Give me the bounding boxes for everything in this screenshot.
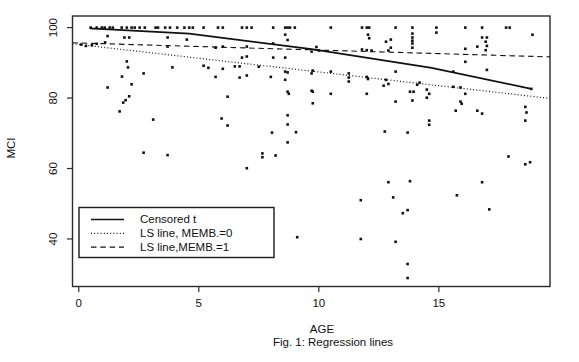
legend-label: Censored t <box>140 213 197 225</box>
scatter-point <box>486 45 489 48</box>
scatter-point <box>246 26 249 29</box>
scatter-point <box>361 26 364 29</box>
scatter-point <box>486 69 489 72</box>
scatter-point <box>411 42 414 45</box>
scatter-point <box>284 56 287 59</box>
scatter-point <box>241 26 244 29</box>
scatter-point <box>387 83 390 86</box>
scatter-point <box>406 263 409 266</box>
scatter-point <box>411 36 414 39</box>
scatter-point <box>310 72 313 75</box>
y-tick-label: 80 <box>47 92 59 105</box>
scatter-point <box>486 36 489 39</box>
scatter-point <box>406 277 409 280</box>
regression-lines <box>73 28 551 98</box>
scatter-point <box>330 70 333 73</box>
scatter-point <box>310 50 313 53</box>
scatter-point <box>348 76 351 79</box>
scatter-point <box>284 26 287 29</box>
scatter-point <box>411 99 414 102</box>
scatter-point <box>508 26 511 29</box>
scatter-point <box>394 70 397 73</box>
scatter-point <box>294 26 297 29</box>
scatter-point <box>186 38 189 41</box>
scatter-point <box>202 26 205 29</box>
scatter-point <box>284 70 287 73</box>
scatter-point <box>361 48 364 51</box>
scatter-point <box>464 93 467 96</box>
y-tick-label: 60 <box>47 162 59 175</box>
scatter-point <box>406 131 409 134</box>
legend-label: LS line,MEMB.=1 <box>140 241 229 253</box>
scatter-point <box>484 49 487 52</box>
line-solid <box>90 28 532 89</box>
scatter-point <box>315 46 318 49</box>
scatter-point <box>112 26 115 29</box>
scatter-point <box>406 209 409 212</box>
scatter-point <box>122 101 125 104</box>
scatter-point <box>274 154 277 157</box>
scatter-point <box>271 131 274 134</box>
scatter-point <box>188 26 191 29</box>
scatter-point <box>392 196 395 199</box>
scatter-point <box>428 124 431 127</box>
scatter-point <box>409 180 412 183</box>
figure-caption: Fig. 1: Regression lines <box>273 336 393 348</box>
scatter-point <box>394 100 397 103</box>
legend-label: LS line, MEMB.=0 <box>140 227 232 239</box>
scatter-point <box>484 40 487 43</box>
scatter-point <box>130 26 133 29</box>
scatter-point <box>524 106 527 109</box>
x-tick-label: 15 <box>432 297 445 309</box>
legend-box: Censored tLS line, MEMB.=0LS line,MEMB.=… <box>79 208 274 258</box>
scatter-point <box>366 26 369 29</box>
scatter-point <box>289 26 292 29</box>
scatter-point <box>220 117 223 120</box>
scatter-point <box>258 65 261 68</box>
scatter-point <box>312 90 315 93</box>
scatter-point <box>166 154 169 157</box>
scatter-point <box>412 90 415 93</box>
scatter-point <box>330 93 333 96</box>
x-tick-label: 0 <box>76 297 82 309</box>
scatter-point <box>428 119 431 122</box>
scatter-point <box>222 26 225 29</box>
scatter-point <box>272 26 275 29</box>
scatter-point <box>409 90 412 93</box>
scatter-point <box>402 212 405 215</box>
scatter-point <box>144 26 147 29</box>
scatter-point <box>360 238 363 241</box>
scatter-point <box>390 38 393 41</box>
scatter-point <box>133 26 136 29</box>
scatter-point <box>360 199 363 202</box>
scatter-point <box>394 241 397 244</box>
scatter-point <box>234 65 237 68</box>
scatter-point <box>123 36 126 39</box>
scatter-point <box>481 112 484 115</box>
scatter-point <box>382 84 385 87</box>
scatter-point <box>238 76 241 79</box>
scatter-point <box>416 83 419 86</box>
scatter-point <box>464 26 467 29</box>
scatter-point <box>126 26 129 29</box>
x-tick-label: 10 <box>312 297 325 309</box>
scatter-point <box>295 131 298 134</box>
scatter-point <box>270 76 273 79</box>
scatter-point <box>127 66 130 69</box>
scatter-point <box>152 118 155 121</box>
scatter-point <box>106 86 109 89</box>
scatter-point <box>464 48 467 51</box>
scatter-point <box>531 33 534 36</box>
x-tick-label: 5 <box>196 297 202 309</box>
y-tick-label: 100 <box>47 18 59 37</box>
scatter-point <box>138 26 141 29</box>
scatter-point <box>250 26 253 29</box>
scatter-point <box>192 26 195 29</box>
scatter-point <box>130 83 133 86</box>
scatter-point <box>367 33 370 36</box>
scatter-point <box>286 114 289 117</box>
scatter-point <box>476 45 479 48</box>
scatter-point <box>330 26 333 29</box>
scatter-point <box>169 26 172 29</box>
scatter-point <box>124 99 127 102</box>
